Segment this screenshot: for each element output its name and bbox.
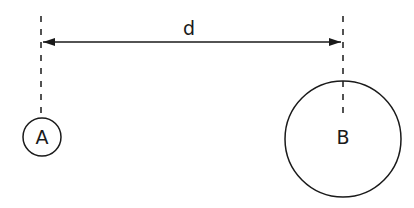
diagram-canvas: d A B bbox=[0, 0, 414, 208]
node-a-label: A bbox=[36, 126, 49, 148]
node-b-label: B bbox=[336, 126, 349, 148]
node-a: A bbox=[23, 118, 61, 156]
distance-label: d bbox=[183, 17, 195, 39]
diagram-svg: d A B bbox=[0, 0, 414, 208]
